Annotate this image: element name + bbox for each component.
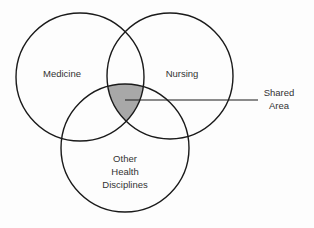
medicine-label: Medicine	[40, 67, 84, 80]
medicine-label-text: Medicine	[43, 68, 81, 79]
other-label-line-3: Disciplines	[95, 178, 155, 191]
venn-diagram-graphic	[0, 0, 314, 228]
nursing-label-text: Nursing	[166, 68, 199, 79]
other-health-disciplines-label: Other Health Disciplines	[95, 152, 155, 191]
shared-label-line-2: Area	[256, 99, 302, 112]
other-label-line-2: Health	[95, 165, 155, 178]
other-label-line-1: Other	[95, 152, 155, 165]
shared-label-line-1: Shared	[256, 86, 302, 99]
nursing-label: Nursing	[162, 67, 202, 80]
shared-area-label: Shared Area	[256, 86, 302, 112]
venn-diagram: Medicine Nursing Other Health Discipline…	[0, 0, 314, 228]
